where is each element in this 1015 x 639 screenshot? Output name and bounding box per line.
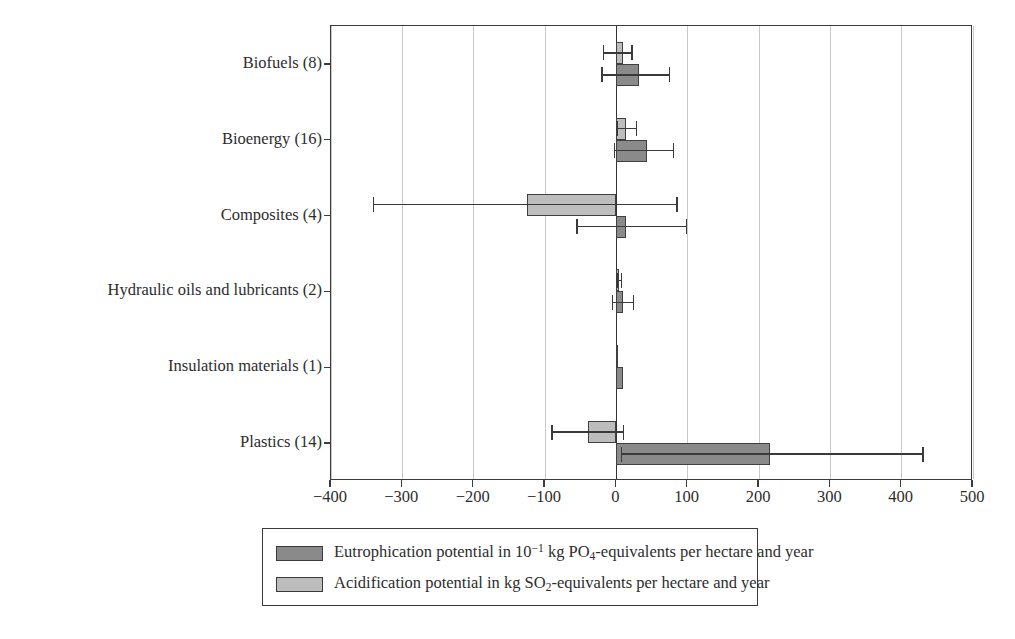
x-axis-tick-label: −400 [313, 489, 347, 506]
error-bar-cap [576, 219, 577, 234]
x-axis-tick [686, 480, 687, 487]
y-axis-category-label: Plastics (14) [240, 434, 322, 451]
error-bar-cap [616, 121, 617, 136]
x-axis-tick [329, 480, 330, 487]
error-bar-eutrophication [602, 74, 670, 75]
y-axis-category-label: Insulation materials (1) [168, 358, 322, 375]
error-bar-cap [922, 447, 923, 462]
gridline [830, 26, 831, 479]
zero-axis-line [616, 26, 618, 479]
x-axis-tick [472, 480, 473, 487]
error-bar-cap [612, 295, 613, 310]
x-axis-tick-label: −200 [456, 489, 490, 506]
x-axis-tick [829, 480, 830, 487]
x-axis-tick-label: 500 [960, 489, 985, 506]
error-bar-cap [631, 45, 632, 60]
legend-swatch-eutrophication [276, 546, 323, 561]
x-axis-tick-label: −100 [527, 489, 561, 506]
error-bar-cap [621, 273, 622, 288]
y-axis-category-label: Biofuels (8) [243, 55, 322, 72]
y-axis-tick [324, 139, 331, 140]
x-axis-tick-label: −300 [384, 489, 418, 506]
y-axis-tick [324, 367, 331, 368]
error-bar-cap [636, 121, 637, 136]
chart-legend: Eutrophication potential in 10−1 kg PO4-… [262, 528, 758, 606]
gridline [901, 26, 902, 479]
error-bar-cap [686, 219, 687, 234]
legend-swatch-acidification [276, 577, 323, 592]
error-bar-acidification [374, 204, 677, 205]
error-bar-cap [669, 67, 670, 82]
gridline [473, 26, 474, 479]
bar-eutrophication [616, 367, 622, 389]
gridline [402, 26, 403, 479]
legend-label-eutrophication: Eutrophication potential in 10−1 kg PO4-… [334, 543, 813, 563]
legend-item-acidification: Acidification potential in kg SO2-equiva… [276, 569, 770, 599]
error-bar-eutrophication [621, 453, 923, 454]
x-axis-tick [401, 480, 402, 487]
error-bar-cap [616, 273, 617, 288]
error-bar-eutrophication [577, 226, 686, 227]
error-bar-cap [633, 295, 634, 310]
x-axis-tick [615, 480, 616, 487]
gridline [687, 26, 688, 479]
y-axis-tick [324, 63, 331, 64]
error-bar-cap [676, 197, 677, 212]
x-axis-tick [757, 480, 758, 487]
error-bar-eutrophication [614, 150, 673, 151]
legend-item-eutrophication: Eutrophication potential in 10−1 kg PO4-… [276, 538, 813, 568]
bar-acidification [616, 345, 618, 367]
error-bar-cap [621, 447, 622, 462]
error-bar-cap [614, 143, 615, 158]
error-bar-acidification [617, 128, 636, 129]
error-bar-acidification [552, 431, 623, 432]
error-bar-eutrophication [613, 302, 634, 303]
error-bar-acidification [603, 52, 632, 53]
error-bar-cap [623, 425, 624, 440]
x-axis-tick-label: 400 [888, 489, 913, 506]
legend-label-acidification: Acidification potential in kg SO2-equiva… [334, 575, 770, 593]
x-axis-tick [971, 480, 972, 487]
chart-figure: Biofuels (8)Bioenergy (16)Composites (4)… [0, 0, 1015, 639]
x-axis-tick [543, 480, 544, 487]
error-bar-cap [673, 143, 674, 158]
y-axis-tick [324, 215, 331, 216]
gridline [331, 26, 332, 479]
gridline [545, 26, 546, 479]
y-axis-category-label: Bioenergy (16) [222, 131, 322, 148]
y-axis-tick [324, 442, 331, 443]
x-axis-tick-label: 100 [674, 489, 699, 506]
y-axis-category-label: Hydraulic oils and lubricants (2) [108, 282, 322, 299]
plot-area [330, 25, 972, 480]
error-bar-cap [551, 425, 552, 440]
gridline [759, 26, 760, 479]
x-axis-tick-label: 300 [817, 489, 842, 506]
error-bar-cap [601, 67, 602, 82]
error-bar-cap [373, 197, 374, 212]
x-axis-tick-label: 200 [746, 489, 771, 506]
gridline [973, 26, 974, 479]
y-axis-category-label: Composites (4) [221, 207, 322, 224]
x-axis-tick [900, 480, 901, 487]
error-bar-cap [603, 45, 604, 60]
y-axis-tick [324, 291, 331, 292]
x-axis: −400−300−200−1000100200300400500 [330, 480, 972, 520]
x-axis-tick-label: 0 [611, 489, 619, 506]
